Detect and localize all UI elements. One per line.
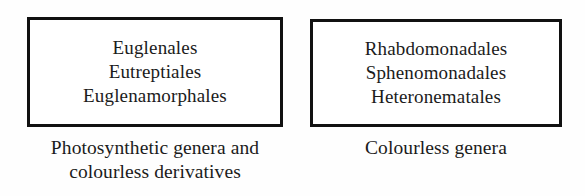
taxon-order-label: Sphenomonadales	[366, 61, 507, 85]
caption-colourless: Colourless genera	[300, 136, 572, 160]
taxon-order-label: Heteronematales	[371, 85, 501, 109]
caption-line: colourless derivatives	[12, 160, 298, 184]
taxon-box-colourless: Rhabdomonadales Sphenomonadales Heterone…	[310, 19, 562, 127]
taxon-box-photosynthetic: Euglenales Eutreptiales Euglenamorphales	[27, 17, 283, 127]
caption-photosynthetic: Photosynthetic genera and colourless der…	[12, 136, 298, 184]
caption-line: Colourless genera	[300, 136, 572, 160]
taxonomy-figure: Euglenales Eutreptiales Euglenamorphales…	[0, 0, 585, 196]
taxon-order-label: Euglenamorphales	[83, 84, 227, 108]
caption-line: Photosynthetic genera and	[12, 136, 298, 160]
taxon-order-label: Eutreptiales	[109, 60, 202, 84]
taxon-order-label: Euglenales	[113, 36, 198, 60]
taxon-order-label: Rhabdomonadales	[365, 37, 508, 61]
